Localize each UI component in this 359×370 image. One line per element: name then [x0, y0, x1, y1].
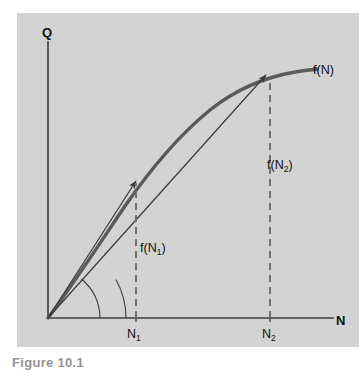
x-tick-label-n2-main: N [262, 327, 271, 341]
value-label-fn1-close: ) [161, 241, 165, 255]
value-label-fn2-subscript: 2 [284, 164, 289, 174]
angle-arc-outer [116, 280, 126, 318]
ray-origin-to-n2 [48, 75, 266, 318]
value-label-fn1-subscript: 1 [157, 247, 162, 257]
production-function-curve [48, 69, 317, 318]
value-label-fn1-main: f(N [140, 241, 157, 255]
x-tick-label-n1-main: N [127, 327, 136, 341]
x-tick-label-n2-subscript: 2 [271, 333, 276, 343]
value-label-fn2: f(N2) [267, 159, 293, 172]
y-axis-label: Q [42, 26, 52, 39]
x-tick-label-n2: N2 [262, 328, 276, 341]
value-label-fn2-main: f(N [267, 158, 284, 172]
angle-arc-inner [82, 279, 101, 318]
x-axis-label: N [336, 314, 345, 327]
value-label-fn1: f(N1) [140, 242, 166, 255]
figure-caption: Figure 10.1 [12, 355, 84, 370]
value-label-fn2-close: ) [288, 158, 292, 172]
x-tick-label-n1: N1 [127, 328, 141, 341]
curve-label: f(N) [313, 64, 334, 77]
x-tick-label-n1-subscript: 1 [136, 333, 141, 343]
